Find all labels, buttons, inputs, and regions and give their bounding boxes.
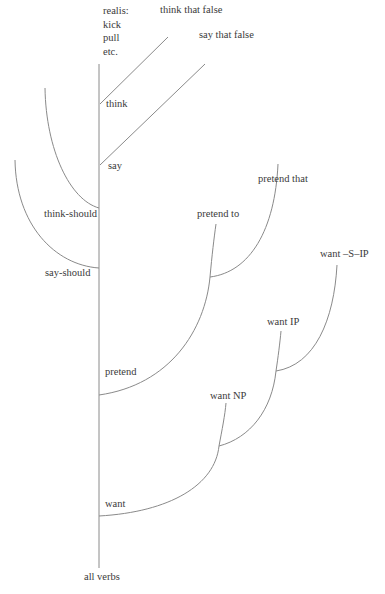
want-np-label: want NP [210, 389, 246, 403]
say-should-label: say-should [45, 266, 91, 280]
think-that-false-label: think that false [160, 3, 222, 17]
want-label: want [105, 497, 125, 511]
diagram-edges [0, 0, 385, 594]
say-that-false-label: say that false [199, 28, 254, 42]
think-should-label: think-should [44, 207, 97, 221]
pretend-label: pretend [105, 365, 137, 379]
pretend-to-edge [210, 224, 216, 277]
want-s-ip-label: want –S–IP [320, 247, 369, 261]
want-ip-label: want IP [267, 315, 299, 329]
realis-label: realis: kick pull etc. [103, 4, 129, 58]
think-should-edge [45, 88, 99, 208]
pretend-to-label: pretend to [197, 207, 239, 221]
pretend-that-label: pretend that [258, 172, 308, 186]
want-np-edge [219, 403, 226, 446]
say-label: say [108, 159, 122, 173]
say-that-false-edge [100, 64, 205, 165]
verb-class-diagram: realis: kick pull etc. think that false … [0, 0, 385, 594]
all-verbs-label: all verbs [84, 570, 120, 584]
want-ip-stem-edge [276, 331, 281, 371]
think-label: think [106, 97, 128, 111]
want-ip-edge [219, 371, 276, 446]
